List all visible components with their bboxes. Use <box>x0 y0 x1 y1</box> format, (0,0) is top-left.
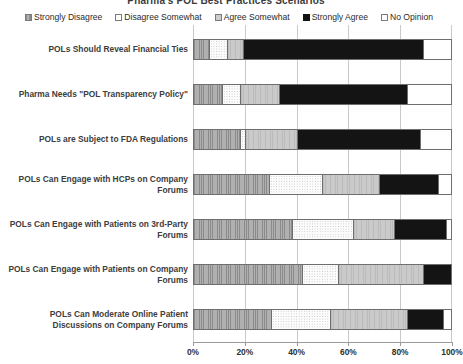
chart-legend: Strongly Disagree Disagree Somewhat Agre… <box>0 9 452 25</box>
bar-segment[interactable] <box>423 265 451 284</box>
axis-tick-mark <box>452 342 453 346</box>
legend-swatch-empty-icon <box>381 14 388 21</box>
legend-label: Disagree Somewhat <box>124 12 201 22</box>
legend-label: Agree Somewhat <box>224 12 290 22</box>
category-axis: POLs Should Reveal Financial Ties Pharma… <box>0 25 193 342</box>
axis-tick-label: 60% <box>340 347 357 357</box>
bar-segment[interactable] <box>209 40 227 59</box>
legend-label: Strongly Agree <box>312 12 368 22</box>
bar-segment[interactable] <box>194 40 209 59</box>
bar-row <box>193 27 452 72</box>
bar-segment[interactable] <box>330 310 407 329</box>
axis-tick-label: 40% <box>288 347 305 357</box>
bar-row <box>193 207 452 252</box>
bar-segment[interactable] <box>407 310 443 329</box>
bar-segment[interactable] <box>438 175 451 194</box>
bars-area <box>193 25 452 342</box>
stacked-bar[interactable] <box>193 219 452 240</box>
axis-tick-label: 20% <box>236 347 253 357</box>
axis-spacer <box>0 342 193 364</box>
chart-title: Pharma's POL Best Practices Scenarios <box>0 0 452 5</box>
bar-segment[interactable] <box>292 220 354 239</box>
legend-swatch-dotted-icon <box>115 14 122 21</box>
stacked-bar[interactable] <box>193 174 452 195</box>
stacked-bar[interactable] <box>193 39 452 60</box>
stacked-bar[interactable] <box>193 129 452 150</box>
bar-row <box>193 252 452 297</box>
bar-row <box>193 117 452 162</box>
bar-segment[interactable] <box>407 85 451 104</box>
stacked-bar[interactable] <box>193 309 452 330</box>
value-axis: 0%20%40%60%80%100% <box>0 342 452 364</box>
bar-segment[interactable] <box>222 85 240 104</box>
bar-segment[interactable] <box>194 220 292 239</box>
legend-swatch-hatched-icon <box>25 14 32 21</box>
legend-label: No Opinion <box>390 12 433 22</box>
legend-swatch-solid-icon <box>303 14 310 21</box>
axis-tick-label: 100% <box>441 347 462 357</box>
bar-segment[interactable] <box>423 40 451 59</box>
axis-baseline <box>193 342 452 343</box>
category-label: POLs Can Engage with Patients on 3rd-Par… <box>0 207 193 252</box>
bar-segment[interactable] <box>279 85 408 104</box>
bar-segment[interactable] <box>379 175 438 194</box>
stacked-bar[interactable] <box>193 84 452 105</box>
bar-segment[interactable] <box>394 220 445 239</box>
bar-segment[interactable] <box>420 130 451 149</box>
axis-tick-mark <box>400 342 401 346</box>
legend-label: Strongly Disagree <box>34 12 102 22</box>
category-label: Pharma Needs "POL Transparency Policy" <box>0 72 193 117</box>
bar-segment[interactable] <box>194 85 222 104</box>
bar-segment[interactable] <box>245 130 296 149</box>
bar-segment[interactable] <box>194 265 302 284</box>
legend-item-strongly-disagree[interactable]: Strongly Disagree <box>25 12 102 22</box>
bar-row <box>193 297 452 342</box>
value-axis-ticks: 0%20%40%60%80%100% <box>193 342 452 364</box>
bar-segment[interactable] <box>338 265 423 284</box>
plot-area: POLs Should Reveal Financial Ties Pharma… <box>0 25 452 342</box>
legend-swatch-light-icon <box>215 14 222 21</box>
legend-item-agree-somewhat[interactable]: Agree Somewhat <box>215 12 290 22</box>
bar-row <box>193 72 452 117</box>
category-label: POLs Can Moderate Online Patient Discuss… <box>0 297 193 342</box>
axis-tick-label: 0% <box>187 347 199 357</box>
bar-segment[interactable] <box>302 265 338 284</box>
bar-segment[interactable] <box>243 40 423 59</box>
stacked-bar[interactable] <box>193 264 452 285</box>
axis-tick-mark <box>245 342 246 346</box>
bar-segment[interactable] <box>194 310 271 329</box>
axis-tick-mark <box>348 342 349 346</box>
legend-item-strongly-agree[interactable]: Strongly Agree <box>303 12 368 22</box>
legend-item-no-opinion[interactable]: No Opinion <box>381 12 433 22</box>
bar-row <box>193 162 452 207</box>
bar-segment[interactable] <box>297 130 420 149</box>
bar-segment[interactable] <box>443 310 451 329</box>
category-label: POLs Can Engage with Patients on Company… <box>0 252 193 297</box>
category-label: POLs Should Reveal Financial Ties <box>0 27 193 72</box>
bar-segment[interactable] <box>194 130 240 149</box>
bar-segment[interactable] <box>446 220 451 239</box>
bar-segment[interactable] <box>271 310 330 329</box>
axis-tick-label: 80% <box>392 347 409 357</box>
bar-segment[interactable] <box>194 175 269 194</box>
axis-tick-mark <box>297 342 298 346</box>
bar-segment[interactable] <box>353 220 394 239</box>
bar-segment[interactable] <box>269 175 323 194</box>
category-label: POLs Can Engage with HCPs on Company For… <box>0 162 193 207</box>
bar-rows <box>193 27 452 342</box>
category-label: POLs are Subject to FDA Regulations <box>0 117 193 162</box>
bar-segment[interactable] <box>322 175 379 194</box>
legend-item-disagree-somewhat[interactable]: Disagree Somewhat <box>115 12 201 22</box>
axis-tick-mark <box>193 342 194 346</box>
bar-segment[interactable] <box>240 85 279 104</box>
bar-segment[interactable] <box>227 40 242 59</box>
